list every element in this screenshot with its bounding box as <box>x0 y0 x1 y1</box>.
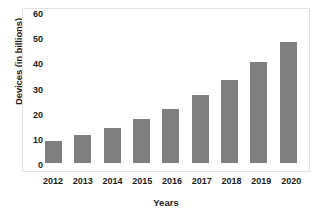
x-axis-tick-label: 2013 <box>68 176 98 186</box>
x-axis-tick-label: 2016 <box>157 176 187 186</box>
bar-slot <box>274 14 303 163</box>
bar <box>133 119 150 163</box>
bar <box>74 135 91 163</box>
x-axis-tick-label: 2017 <box>187 176 217 186</box>
bar-series <box>39 14 303 163</box>
bar-slot <box>215 14 244 163</box>
bar-slot <box>39 14 68 163</box>
bar <box>250 62 267 163</box>
bar-slot <box>98 14 127 163</box>
x-axis-tick-label: 2020 <box>276 176 306 186</box>
bar <box>45 141 62 163</box>
x-axis-title: Years <box>22 197 310 208</box>
bar-chart-figure: Devices (in billions) 0102030405060 2012… <box>0 0 334 220</box>
bar <box>192 95 209 163</box>
bar-slot <box>156 14 185 163</box>
x-axis-tick-label: 2018 <box>217 176 247 186</box>
x-axis-tick-label: 2012 <box>38 176 68 186</box>
bar-slot <box>186 14 215 163</box>
x-axis-tick-label: 2015 <box>127 176 157 186</box>
bar-slot <box>244 14 273 163</box>
x-axis-tick-label: 2014 <box>98 176 128 186</box>
plot-area <box>39 14 303 163</box>
bar <box>221 80 238 163</box>
x-axis-tick-labels: 201220132014201520162017201820192020 <box>38 176 306 186</box>
plot-frame: 0102030405060 <box>22 8 310 172</box>
bar <box>280 42 297 163</box>
bar-slot <box>68 14 97 163</box>
bar <box>162 109 179 163</box>
bar <box>104 128 121 163</box>
x-axis-tick-label: 2019 <box>246 176 276 186</box>
bar-slot <box>127 14 156 163</box>
